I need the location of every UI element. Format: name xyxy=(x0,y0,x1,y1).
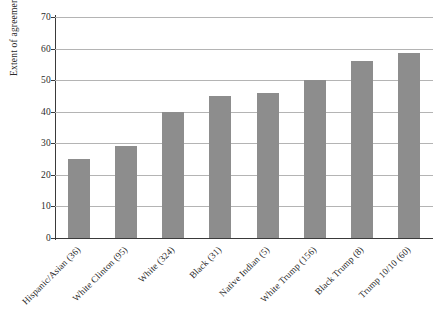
y-tick-label: 0 xyxy=(5,233,51,243)
y-tick-label: 40 xyxy=(5,107,51,117)
bar[interactable] xyxy=(304,80,326,238)
bar-series xyxy=(55,17,433,238)
bar-chart-figure: Extent of agreement 010203040506070 Hisp… xyxy=(0,0,448,318)
x-axis-line xyxy=(55,238,433,239)
y-tick-label: 20 xyxy=(5,170,51,180)
y-tick-label: 60 xyxy=(5,44,51,54)
bar[interactable] xyxy=(162,112,184,238)
bar[interactable] xyxy=(209,96,231,238)
y-axis-ticks: 010203040506070 xyxy=(0,17,51,238)
bar[interactable] xyxy=(68,159,90,238)
y-tick-label: 30 xyxy=(5,138,51,148)
bar[interactable] xyxy=(115,146,137,238)
bar[interactable] xyxy=(351,61,373,238)
y-tick-label: 10 xyxy=(5,201,51,211)
bar[interactable] xyxy=(257,93,279,238)
y-tick-label: 70 xyxy=(5,12,51,22)
bar[interactable] xyxy=(398,53,420,238)
y-tick-label: 50 xyxy=(5,75,51,85)
